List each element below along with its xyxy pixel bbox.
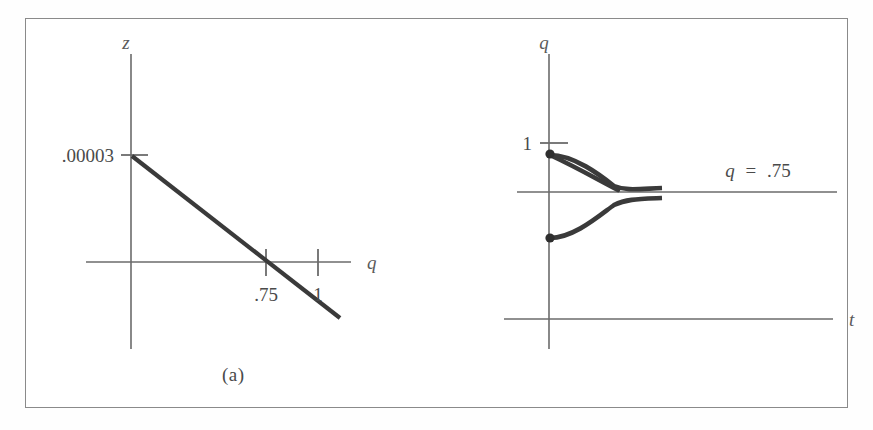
panel-a-y-axis-label: z [121, 32, 130, 53]
panel-a-plot: z q .00003 .75 1 [26, 19, 462, 407]
panel-a-z-line [132, 156, 340, 318]
panel-a-x-tick-label-1: 1 [313, 284, 323, 305]
panel-b-equilibrium-eq: = [746, 160, 757, 181]
panel-a-x-axis-label: q [367, 252, 377, 273]
panel-a-y-tick-label: .00003 [62, 145, 114, 166]
panel-b-equilibrium-value: .75 [767, 160, 791, 181]
figure-frame: z q .00003 .75 1 (a) [25, 18, 848, 408]
panel-b-upper-curve [550, 155, 618, 190]
panel-b-y-axis-label: q [539, 32, 549, 53]
panel-b-lower-curve [550, 198, 662, 238]
panel-a-caption: (a) [222, 364, 245, 386]
panel-b-lower-start-dot [545, 233, 554, 242]
panel-b-plot: q t 1 q = .75 [462, 19, 873, 407]
panel-b-y-tick-label: 1 [523, 133, 533, 154]
panel-a: z q .00003 .75 1 (a) [26, 19, 462, 407]
panel-b-upper-start-dot [545, 149, 554, 158]
panel-b-equilibrium-label: q = .75 [725, 160, 790, 181]
panel-b: q t 1 q = .75 (b) [462, 19, 873, 407]
panel-a-x-tick-label-075: .75 [254, 284, 278, 305]
figure-root: z q .00003 .75 1 (a) [0, 0, 873, 430]
panel-b-equilibrium-var: q [725, 160, 735, 181]
panel-b-x-axis-label: t [849, 309, 855, 330]
